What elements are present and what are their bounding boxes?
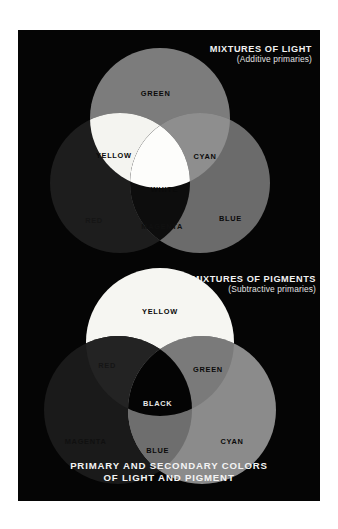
panel-mixtures-of-light: MIXTURES OF LIGHT (Additive primaries) (18, 30, 320, 262)
venn-additive-svg (50, 48, 270, 253)
diagram-plate: MIXTURES OF LIGHT (Additive primaries) (18, 30, 320, 501)
venn-diagram-additive: GREEN YELLOW CYAN WHITE RED MAGENTA BLUE (50, 48, 270, 253)
figure-caption: PRIMARY AND SECONDARY COLORS OF LIGHT AN… (18, 460, 320, 485)
caption-line-2: OF LIGHT AND PIGMENT (18, 472, 320, 485)
caption-line-1: PRIMARY AND SECONDARY COLORS (18, 460, 320, 473)
color-theory-figure: MIXTURES OF LIGHT (Additive primaries) (0, 0, 338, 529)
panel-mixtures-of-pigments: MIXTURES OF PIGMENTS (Subtractive primar… (18, 262, 320, 501)
